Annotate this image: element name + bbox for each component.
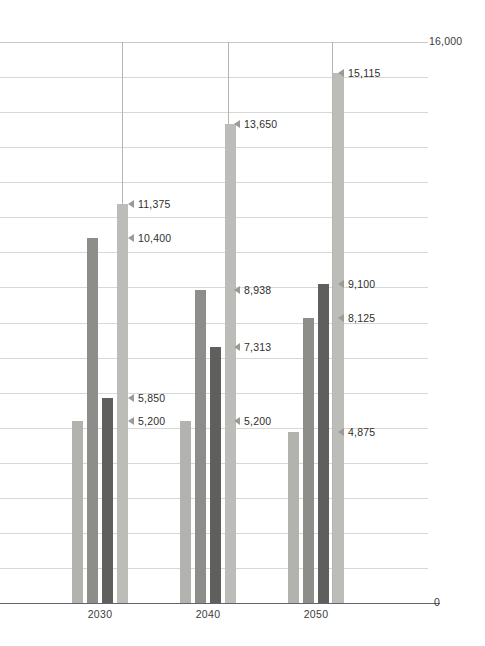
value-label: 15,115 [348, 67, 381, 79]
x-axis-label-2030: 2030 [70, 608, 130, 620]
left-arrow-icon [338, 428, 344, 436]
bars-layer [0, 0, 485, 603]
value-label: 5,200 [138, 415, 165, 427]
value-label: 5,200 [244, 415, 271, 427]
bar [210, 347, 221, 603]
value-callout: 8,125 [338, 312, 375, 324]
bar [318, 284, 329, 603]
value-label: 9,100 [348, 278, 375, 290]
bar [303, 318, 314, 603]
value-callout: 13,650 [234, 118, 277, 130]
left-arrow-icon [338, 280, 344, 288]
value-callout: 15,115 [338, 67, 381, 79]
bar [180, 421, 191, 603]
bar [117, 204, 128, 603]
value-label: 5,850 [138, 392, 165, 404]
bar [87, 238, 98, 603]
bar [102, 398, 113, 603]
x-axis-label-2040: 2040 [178, 608, 238, 620]
bar [288, 432, 299, 603]
value-label: 4,875 [348, 426, 375, 438]
value-label: 7,313 [244, 341, 271, 353]
left-arrow-icon [338, 314, 344, 322]
value-label: 8,125 [348, 312, 375, 324]
x-axis-label-2050: 2050 [286, 608, 346, 620]
value-callout: 10,400 [128, 232, 171, 244]
left-arrow-icon [128, 234, 134, 242]
bar [195, 290, 206, 603]
left-arrow-icon [128, 200, 134, 208]
left-arrow-icon [338, 69, 344, 77]
left-arrow-icon [234, 286, 240, 294]
left-arrow-icon [234, 417, 240, 425]
value-callout: 11,375 [128, 198, 171, 210]
left-arrow-icon [234, 343, 240, 351]
value-callout: 8,938 [234, 284, 271, 296]
value-callout: 9,100 [338, 278, 375, 290]
left-arrow-icon [128, 394, 134, 402]
value-callout: 5,200 [128, 415, 165, 427]
value-label: 10,400 [138, 232, 171, 244]
value-callout: 4,875 [338, 426, 375, 438]
left-arrow-icon [234, 120, 240, 128]
value-label: 11,375 [138, 198, 171, 210]
value-callout: 5,200 [234, 415, 271, 427]
x-axis-baseline [0, 603, 440, 604]
bar [333, 73, 344, 603]
bar [72, 421, 83, 603]
bar [225, 124, 236, 603]
value-callout: 5,850 [128, 392, 165, 404]
value-label: 13,650 [244, 118, 277, 130]
bar-chart: 16,000 0 203020402050 11,37510,4005,8505… [0, 0, 485, 646]
left-arrow-icon [128, 417, 134, 425]
value-label: 8,938 [244, 284, 271, 296]
value-callout: 7,313 [234, 341, 271, 353]
